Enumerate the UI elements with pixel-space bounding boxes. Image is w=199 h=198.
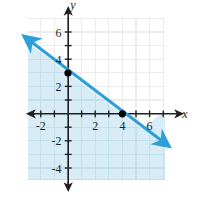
xtick-label--2: -2 xyxy=(36,119,46,133)
ytick-label-6: 6 xyxy=(56,26,62,40)
shaded-region xyxy=(28,18,165,198)
coordinate-plane: -2 2 4 6 -4 -2 2 4 6 x y xyxy=(0,0,199,198)
y-axis-label: y xyxy=(69,0,76,12)
xtick-label-2: 2 xyxy=(92,119,98,133)
xtick-label-6: 6 xyxy=(147,119,153,133)
ytick-label-4: 4 xyxy=(56,53,62,67)
point-x-intercept xyxy=(119,110,126,117)
ytick-label--2: -2 xyxy=(52,134,62,148)
ytick-label--4: -4 xyxy=(52,162,62,176)
x-axis-label: x xyxy=(181,107,188,121)
ytick-label-2: 2 xyxy=(56,80,62,94)
point-y-intercept xyxy=(64,69,71,76)
xtick-label-4: 4 xyxy=(119,119,125,133)
graph-figure: -2 2 4 6 -4 -2 2 4 6 x y xyxy=(0,0,199,198)
